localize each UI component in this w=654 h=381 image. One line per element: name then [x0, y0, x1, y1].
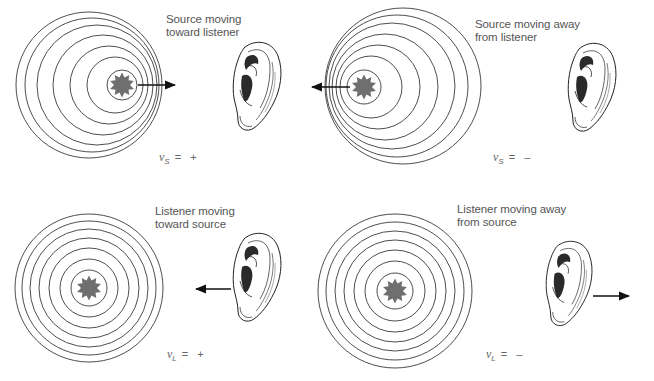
ear-icon	[546, 241, 592, 325]
ear-icon	[568, 43, 616, 131]
sound-source-icon	[77, 276, 101, 301]
equation-source-away: vS= –	[493, 150, 533, 166]
sound-source-icon	[352, 75, 376, 100]
ear-icon	[233, 42, 281, 130]
wavefront-circle	[325, 8, 481, 164]
panel-source-away	[312, 8, 481, 164]
doppler-effect-diagram: Source moving toward listener vS= + Sour…	[0, 0, 654, 381]
equation-listener-toward: vL= +	[167, 347, 207, 363]
sound-source-icon	[383, 279, 407, 304]
equation-source-toward: vS= +	[159, 150, 200, 166]
diagram-drawing	[0, 0, 654, 381]
panel-listener-toward	[15, 214, 231, 362]
wavefront-circle	[329, 23, 455, 149]
caption-source-away: Source moving away from listener	[475, 18, 580, 44]
sound-source-icon	[110, 73, 134, 98]
caption-source-toward: Source moving toward listener	[166, 13, 241, 39]
caption-listener-away: Listener moving away from source	[457, 203, 566, 229]
panel-source-toward	[16, 12, 175, 158]
equation-listener-away: vL= –	[486, 347, 525, 363]
ear-icon	[233, 233, 281, 321]
caption-listener-toward: Listener moving toward source	[155, 205, 235, 231]
